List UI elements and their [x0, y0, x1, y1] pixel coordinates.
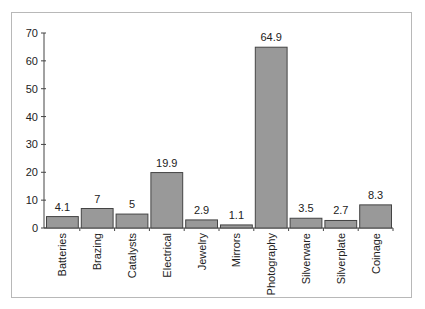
bar-coinage — [360, 205, 392, 228]
y-tick-label: 50 — [26, 83, 38, 95]
bar-brazing — [81, 209, 113, 229]
category-label: Mirrors — [230, 233, 242, 268]
category-label: Coinage — [370, 233, 382, 274]
value-label: 2.9 — [194, 204, 209, 216]
category-label: Photography — [265, 233, 277, 296]
value-label: 1.1 — [229, 209, 244, 221]
category-label: Brazing — [91, 233, 103, 270]
category-label: Electrical — [161, 233, 173, 278]
category-label: Silverplate — [335, 233, 347, 284]
category-label: Batteries — [56, 233, 68, 277]
bar-electrical — [151, 173, 183, 228]
bar-chart: 0102030405060704.1Batteries7Brazing5Cata… — [0, 0, 425, 309]
value-label: 7 — [94, 193, 100, 205]
y-tick-label: 30 — [26, 138, 38, 150]
y-tick-label: 10 — [26, 194, 38, 206]
category-label: Jewelry — [196, 233, 208, 271]
y-tick-label: 0 — [32, 222, 38, 234]
y-tick-label: 60 — [26, 55, 38, 67]
value-label: 8.3 — [368, 189, 383, 201]
y-tick-label: 20 — [26, 166, 38, 178]
bar-silverware — [290, 218, 322, 228]
category-label: Silverware — [300, 233, 312, 284]
value-label: 19.9 — [156, 157, 177, 169]
bar-jewelry — [186, 220, 218, 228]
y-tick-label: 70 — [26, 27, 38, 39]
category-label: Catalysts — [126, 233, 138, 279]
bar-silverplate — [325, 220, 357, 228]
bar-mirrors — [221, 225, 253, 228]
value-label: 5 — [129, 198, 135, 210]
y-tick-label: 40 — [26, 111, 38, 123]
bar-catalysts — [116, 214, 148, 228]
value-label: 2.7 — [333, 204, 348, 216]
value-label: 64.9 — [260, 31, 281, 43]
value-label: 4.1 — [55, 201, 70, 213]
value-label: 3.5 — [298, 202, 313, 214]
bar-photography — [255, 47, 287, 228]
bar-batteries — [47, 217, 79, 228]
